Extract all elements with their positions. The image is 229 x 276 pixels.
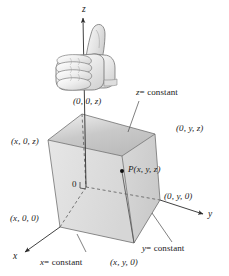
vertex-0-y-z-label: (0, y, z) — [176, 124, 203, 133]
vertex-x-y-0-label: (x, y, 0) — [110, 258, 138, 267]
plane-y-constant-label: y= constant — [142, 244, 184, 253]
vertex-0-0-z-label: (0, 0, z) — [73, 97, 101, 106]
y-axis — [160, 200, 203, 214]
vertex-0-y-0-label: (0, y, 0) — [164, 192, 192, 201]
vertex-x-0-0-label: (x, 0, 0) — [10, 214, 39, 223]
right-hand-thumb-up-icon — [56, 24, 117, 90]
vertex-x-0-z-label: (x, 0, z) — [11, 137, 39, 146]
origin-label: 0 — [72, 180, 77, 189]
plane-y-constant-text: = constant — [146, 243, 184, 253]
point-p-marker — [120, 169, 124, 173]
x-axis — [25, 227, 60, 252]
plane-z-constant-label: z= constant — [136, 88, 178, 97]
plane-z-constant-text: = constant — [140, 87, 178, 97]
coordinate-system-figure: z y x 0 P(x, y, z) (0, 0, z) (0, y, z) (… — [0, 0, 229, 276]
point-p-label: P(x, y, z) — [128, 165, 161, 174]
z-axis-label: z — [82, 5, 86, 15]
plane-x-constant-label: x= constant — [40, 258, 82, 267]
x-axis-label: x — [13, 252, 17, 262]
y-axis-label: y — [208, 210, 212, 220]
plane-x-constant-text: = constant — [44, 257, 82, 267]
